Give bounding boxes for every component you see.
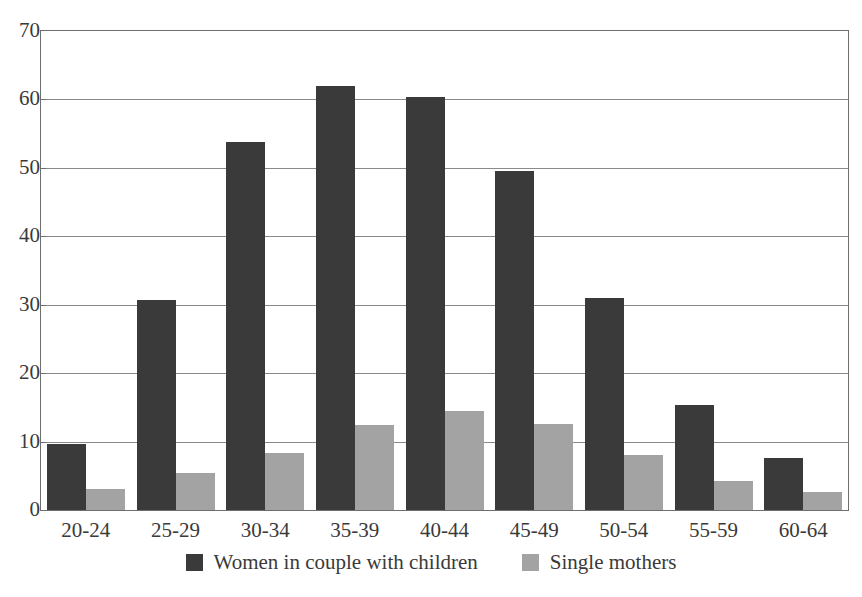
x-tick-label: 30-34: [220, 518, 310, 542]
bar-single-mothers: [803, 492, 842, 510]
bar-group: [406, 31, 484, 510]
dark-square-swatch: [186, 554, 203, 571]
bar-group: [47, 31, 125, 510]
bar-women-in-couple-with-children: [585, 298, 624, 510]
bar-group: [675, 31, 753, 510]
bar-group: [764, 31, 842, 510]
x-tick-label: 35-39: [310, 518, 400, 542]
bar-group: [226, 31, 304, 510]
bar-women-in-couple-with-children: [675, 405, 714, 510]
legend-item: Women in couple with children: [186, 552, 478, 573]
bar-single-mothers: [176, 473, 215, 510]
bar-group: [585, 31, 663, 510]
bar-single-mothers: [624, 455, 663, 510]
x-tick-label: 45-49: [489, 518, 579, 542]
bar-women-in-couple-with-children: [137, 300, 176, 510]
bar-group: [137, 31, 215, 510]
y-tick-label: 30: [6, 294, 40, 315]
y-tick-label: 0: [6, 499, 40, 520]
bar-single-mothers: [534, 424, 573, 510]
bar-single-mothers: [265, 453, 304, 510]
bar-women-in-couple-with-children: [495, 171, 534, 510]
y-tick-label: 20: [6, 362, 40, 383]
y-tick-label: 70: [6, 20, 40, 41]
x-tick-label: 55-59: [669, 518, 759, 542]
x-tick-label: 40-44: [400, 518, 490, 542]
legend-item-label: Women in couple with children: [214, 552, 478, 573]
x-tick-label: 60-64: [758, 518, 848, 542]
bar-single-mothers: [86, 489, 125, 510]
legend-item: Single mothers: [522, 552, 677, 573]
y-tick-mark: [40, 442, 46, 443]
y-tick-mark: [40, 373, 46, 374]
y-tick-mark: [40, 99, 46, 100]
y-tick-mark: [40, 168, 46, 169]
bar-group: [316, 31, 394, 510]
y-tick-label: 40: [6, 225, 40, 246]
y-tick-label: 50: [6, 157, 40, 178]
legend-item-label: Single mothers: [550, 552, 677, 573]
y-tick-mark: [40, 305, 46, 306]
bar-single-mothers: [714, 481, 753, 510]
bar-single-mothers: [355, 425, 394, 510]
light-square-swatch: [522, 554, 539, 571]
bar-women-in-couple-with-children: [316, 86, 355, 510]
bar-women-in-couple-with-children: [764, 458, 803, 510]
bar-women-in-couple-with-children: [226, 142, 265, 510]
bar-chart: 010203040506070 20-2425-2930-3435-3940-4…: [0, 0, 862, 597]
bar-group: [495, 31, 573, 510]
bars-layer: [41, 31, 848, 510]
chart-legend: Women in couple with children Single mot…: [0, 552, 862, 573]
x-axis: 20-2425-2930-3435-3940-4445-4950-5455-59…: [41, 518, 848, 548]
x-tick-label: 25-29: [131, 518, 221, 542]
bar-single-mothers: [445, 411, 484, 510]
x-tick-label: 50-54: [579, 518, 669, 542]
y-tick-mark: [40, 236, 46, 237]
bar-women-in-couple-with-children: [47, 444, 86, 510]
x-tick-label: 20-24: [41, 518, 131, 542]
y-tick-label: 10: [6, 431, 40, 452]
y-axis: 010203040506070: [0, 0, 40, 597]
bar-women-in-couple-with-children: [406, 97, 445, 510]
y-tick-label: 60: [6, 88, 40, 109]
